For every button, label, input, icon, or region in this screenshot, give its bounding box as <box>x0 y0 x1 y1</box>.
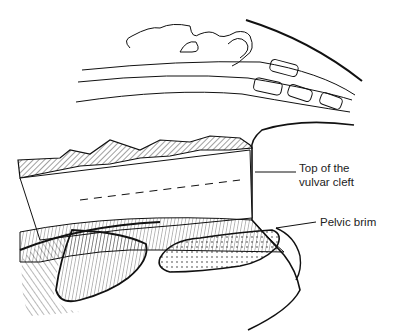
label-pelvic-brim: Pelvic brim <box>320 215 376 229</box>
anatomical-diagram: Top of the vulvar cleft Pelvic brim <box>0 0 396 336</box>
bladder <box>56 230 147 301</box>
label-vulvar-cleft-line1: Top of the <box>299 161 354 175</box>
label-vulvar-cleft: Top of the vulvar cleft <box>299 161 354 189</box>
tail-vertebrae <box>253 59 344 111</box>
vertebra-spines <box>126 24 252 66</box>
label-vulvar-cleft-line2: vulvar cleft <box>299 175 354 189</box>
